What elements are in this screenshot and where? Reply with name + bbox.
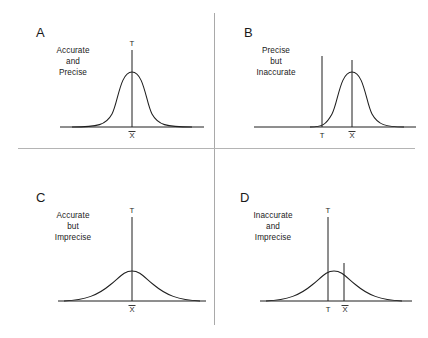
- panel-d-label-xbar: X: [342, 305, 347, 314]
- panel-b-curve: [310, 72, 404, 127]
- panel-b-plot: T X: [252, 30, 418, 142]
- panel-b-label-xbar: X: [349, 131, 354, 140]
- panel-c-label-xbar: X: [129, 305, 134, 314]
- panel-c: C Accurate but Imprecise T X: [0, 169, 214, 338]
- panel-a-label-t: T: [130, 39, 135, 48]
- figure-root: A Accurate and Precise T X B Precise but…: [0, 0, 428, 338]
- panel-d-label-t: T: [326, 305, 331, 314]
- panel-d-label-t-top: T: [326, 206, 331, 215]
- panel-d-plot: T T X: [244, 195, 414, 317]
- panel-b: B Precise but Inaccurate T X: [214, 0, 428, 169]
- panel-b-label-t: T: [320, 131, 325, 140]
- panel-a: A Accurate and Precise T X: [0, 0, 214, 169]
- panel-a-plot: T X: [58, 30, 206, 142]
- panel-c-plot: T X: [56, 195, 208, 317]
- panel-a-label-xbar: X: [129, 131, 134, 140]
- panel-d: D Inaccurate and Imprecise T T X: [214, 169, 428, 338]
- panel-c-label-t: T: [130, 206, 135, 215]
- panel-d-curve: [266, 271, 402, 301]
